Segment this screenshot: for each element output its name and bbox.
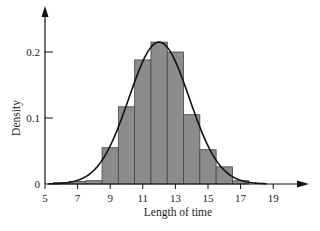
histogram-bar bbox=[200, 150, 216, 184]
y-tick-label: 0.2 bbox=[26, 46, 40, 58]
histogram-bar bbox=[184, 115, 200, 184]
y-tick-label: 0 bbox=[35, 178, 41, 190]
histogram-bar bbox=[167, 52, 183, 184]
histogram-bar bbox=[118, 107, 134, 184]
x-tick-label: 11 bbox=[138, 192, 149, 204]
x-tick-label: 13 bbox=[170, 192, 182, 204]
x-tick-label: 19 bbox=[268, 192, 280, 204]
histogram-bar bbox=[102, 148, 118, 184]
x-tick-label: 5 bbox=[42, 192, 48, 204]
x-tick-label: 17 bbox=[235, 192, 247, 204]
x-tick-label: 9 bbox=[107, 192, 113, 204]
y-axis-label: Density bbox=[10, 100, 23, 136]
y-axis-arrow-icon bbox=[42, 6, 49, 17]
histogram-bar bbox=[135, 60, 151, 184]
x-ticks: 5791113151719 bbox=[42, 184, 279, 204]
histogram-bars bbox=[53, 42, 249, 184]
histogram-bar bbox=[151, 42, 167, 184]
y-tick-label: 0.1 bbox=[26, 112, 40, 124]
x-tick-label: 7 bbox=[75, 192, 81, 204]
histogram-chart: 5791113151719 00.10.2 Length of time Den… bbox=[0, 0, 320, 231]
x-axis-arrow-icon bbox=[297, 181, 309, 188]
x-axis-label: Length of time bbox=[144, 206, 212, 219]
x-tick-label: 15 bbox=[203, 192, 215, 204]
y-ticks: 00.10.2 bbox=[26, 46, 53, 190]
